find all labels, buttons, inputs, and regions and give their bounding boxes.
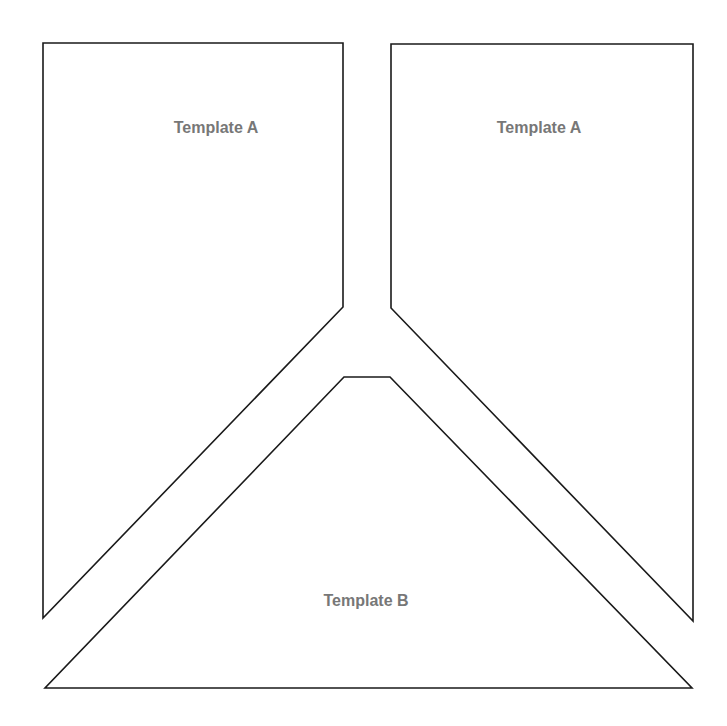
template-diagram: Template A Template A Template B [0,0,727,726]
template-a-right-label: Template A [497,119,582,136]
template-b-label: Template B [323,592,408,609]
template-a-left-label: Template A [174,119,259,136]
